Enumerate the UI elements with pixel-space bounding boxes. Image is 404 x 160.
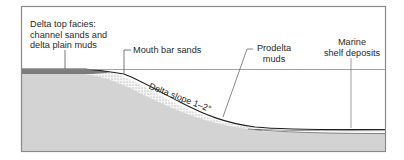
label-prodelta-muds: Prodelta muds: [254, 43, 294, 64]
label-prodelta-line1: Prodelta: [254, 43, 294, 54]
label-marine-line2: shelf deposits: [320, 48, 384, 59]
label-delta-top-line3: delta plain muds: [30, 40, 107, 51]
label-delta-top-line2: channel sands and: [30, 30, 107, 41]
label-marine-shelf-deposits: Marine shelf deposits: [320, 37, 384, 58]
label-delta-top-facies: Delta top facies: channel sands and delt…: [30, 19, 107, 51]
label-prodelta-line2: muds: [254, 54, 294, 65]
label-delta-top-line1: Delta top facies:: [30, 19, 107, 30]
delta-cross-section-diagram: Delta top facies: channel sands and delt…: [0, 0, 404, 160]
label-marine-line1: Marine: [320, 37, 384, 48]
label-mouth-bar-sands: Mouth bar sands: [133, 45, 201, 56]
